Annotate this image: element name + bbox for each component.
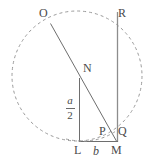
main-circle	[12, 11, 142, 141]
point-label-N: N	[83, 62, 92, 74]
fraction-denominator-2: 2	[62, 110, 78, 122]
point-label-O: O	[39, 7, 48, 19]
fraction-numerator-a: a	[62, 95, 78, 107]
label-a-over-2: a 2	[62, 95, 78, 121]
figure-canvas	[0, 0, 155, 166]
point-label-R: R	[118, 7, 126, 19]
point-label-L: L	[74, 144, 81, 156]
segment-OM	[51, 24, 118, 143]
point-label-P: P	[99, 125, 106, 137]
geometry-figure: O R N a 2 P Q L b M	[0, 0, 155, 166]
label-b: b	[93, 145, 99, 157]
point-label-M: M	[111, 144, 122, 156]
point-label-Q: Q	[118, 125, 127, 137]
